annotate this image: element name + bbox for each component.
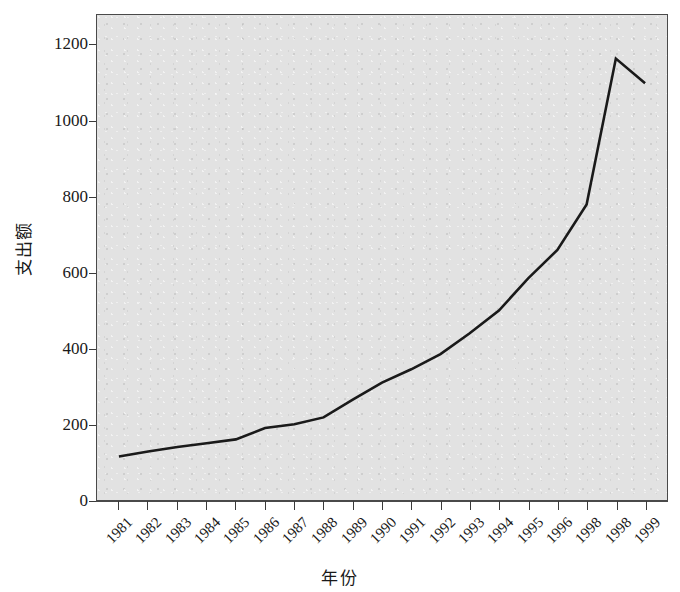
- x-axis-tick-labels: 1981198219831984198519861987198819891990…: [0, 0, 680, 592]
- line-chart-figure: 支出额 120010008006004002000 19811982198319…: [0, 0, 680, 592]
- x-axis-title: 年份: [0, 564, 680, 589]
